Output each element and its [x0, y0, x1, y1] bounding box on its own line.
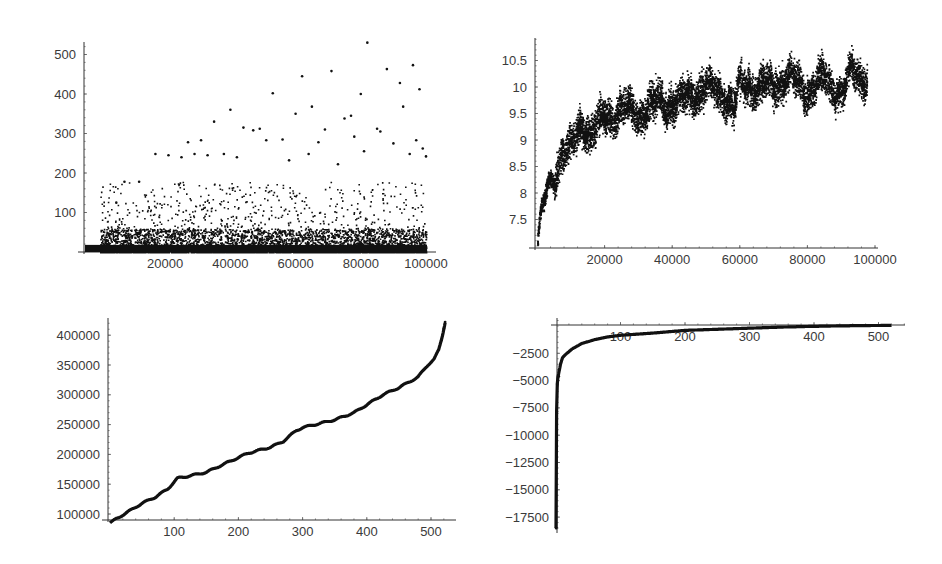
y-tick-label: 500 — [54, 47, 76, 62]
x-tick-label: 80000 — [343, 256, 379, 271]
outlier-point — [115, 201, 118, 204]
x-tick-label: 80000 — [789, 252, 825, 267]
outlier-point — [425, 155, 428, 158]
outlier-point — [366, 41, 369, 44]
data-point — [557, 375, 560, 378]
outlier-point — [402, 105, 405, 108]
outlier-point — [337, 163, 340, 166]
outlier-point — [213, 120, 216, 123]
y-tick-label: −10000 — [505, 428, 549, 443]
y-tick-label: 400000 — [57, 328, 100, 343]
x-tick-label: 500 — [420, 524, 442, 539]
data-line — [110, 323, 445, 523]
outlier-point — [386, 68, 389, 71]
data-point — [555, 527, 558, 530]
x-tick-label: 400 — [803, 329, 825, 344]
x-tick-label: 40000 — [212, 256, 248, 271]
outlier-point — [376, 127, 379, 130]
x-tick-label: 500 — [868, 329, 890, 344]
y-tick-label: 8.5 — [509, 159, 527, 174]
y-tick-label: −17500 — [505, 510, 549, 525]
y-tick-label: 200 — [54, 166, 76, 181]
chart-figure: 2000040000600008000010000010020030040050… — [0, 0, 942, 564]
x-tick-label: 100 — [163, 524, 185, 539]
outlier-point — [412, 64, 415, 67]
outlier-point — [311, 105, 314, 108]
outlier-point — [223, 153, 226, 156]
y-tick-label: −15000 — [505, 482, 549, 497]
x-tick-label: 400 — [356, 524, 378, 539]
x-tick-label: 60000 — [278, 256, 314, 271]
data-point — [555, 410, 558, 413]
x-tick-label: 60000 — [722, 252, 758, 267]
scatter-points — [537, 45, 868, 246]
outlier-point — [418, 88, 421, 91]
outlier-point — [330, 70, 333, 73]
outlier-point — [138, 180, 141, 183]
data-point — [556, 382, 559, 385]
outlier-point — [360, 93, 363, 96]
x-tick-label: 300 — [292, 524, 314, 539]
outlier-point — [421, 147, 424, 150]
panel-bottom-right-plot: 100200300400500−2500−5000−7500−10000−125… — [505, 318, 905, 533]
x-tick-label: 20000 — [587, 252, 623, 267]
outlier-point — [193, 153, 196, 156]
outlier-point — [301, 75, 304, 78]
outlier-point — [399, 82, 402, 85]
y-tick-label: −7500 — [512, 400, 549, 415]
outlier-point — [317, 141, 320, 144]
outlier-point — [288, 159, 291, 162]
y-tick-label: 100 — [54, 205, 76, 220]
y-tick-label: 250000 — [57, 417, 100, 432]
panel-top-right-plot: 200004000060000800001000007.588.599.5101… — [502, 38, 897, 267]
scatter-points — [100, 182, 428, 254]
y-tick-label: 300000 — [57, 387, 100, 402]
y-tick-label: −12500 — [505, 455, 549, 470]
outlier-point — [167, 154, 170, 157]
outlier-point — [324, 128, 327, 131]
y-tick-label: 200000 — [57, 447, 100, 462]
outlier-point — [252, 129, 255, 132]
outlier-point — [307, 153, 310, 156]
outlier-point — [379, 130, 382, 133]
outlier-point — [408, 153, 411, 156]
panel-bottom-left-plot: 1002003004005001000001500002000002500003… — [57, 318, 456, 539]
outlier-point — [242, 126, 245, 129]
y-tick-label: 8 — [520, 186, 527, 201]
y-tick-label: 300 — [54, 126, 76, 141]
outlier-point — [271, 92, 274, 95]
x-tick-label: 20000 — [147, 256, 183, 271]
y-tick-label: −5000 — [512, 373, 549, 388]
outlier-point — [294, 112, 297, 115]
y-tick-label: 100000 — [57, 507, 100, 522]
y-tick-label: 350000 — [57, 358, 100, 373]
y-tick-label: 9 — [520, 133, 527, 148]
outlier-point — [392, 142, 395, 145]
outlier-point — [236, 156, 239, 159]
x-tick-label: 40000 — [654, 252, 690, 267]
outlier-point — [265, 139, 268, 142]
y-tick-label: 400 — [54, 87, 76, 102]
x-tick-label: 100000 — [853, 252, 896, 267]
outlier-point — [206, 154, 209, 157]
outlier-point — [180, 156, 183, 159]
outlier-point — [229, 109, 232, 112]
x-tick-label: 300 — [739, 329, 761, 344]
y-tick-label: −2500 — [512, 346, 549, 361]
outlier-point — [154, 153, 157, 156]
outlier-point — [200, 139, 203, 142]
outlier-point — [350, 114, 353, 117]
x-tick-label: 100000 — [404, 256, 447, 271]
outlier-point — [187, 141, 190, 144]
outlier-point — [353, 135, 356, 138]
y-tick-label: 9.5 — [509, 106, 527, 121]
outlier-point — [123, 180, 126, 183]
y-tick-label: 7.5 — [509, 212, 527, 227]
y-tick-label: 150000 — [57, 477, 100, 492]
outlier-point — [363, 150, 366, 153]
y-tick-label: 10.5 — [502, 53, 527, 68]
y-tick-label: 10 — [513, 80, 527, 95]
x-tick-label: 200 — [228, 524, 250, 539]
panel-top-left-plot: 2000040000600008000010000010020030040050… — [54, 41, 447, 271]
data-line — [556, 325, 891, 528]
